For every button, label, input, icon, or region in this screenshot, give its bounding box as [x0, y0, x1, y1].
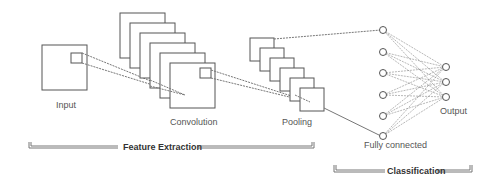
input-kernel-window [71, 53, 82, 63]
input-label: Input [56, 100, 77, 110]
fc-to-output-edges [383, 30, 445, 136]
cnn-diagram: Input Convolution Pooling Fully connecte… [0, 0, 496, 186]
fully-connected-label: Fully connected [364, 140, 427, 150]
output-label: Output [440, 106, 468, 116]
fully-connected-nodes [380, 27, 387, 140]
pooling-label: Pooling [282, 117, 312, 127]
conv-kernel-window [200, 68, 211, 78]
convolution-label: Convolution [170, 117, 218, 127]
convolution-feature-maps [120, 13, 215, 108]
classification-label: Classification [387, 166, 446, 176]
input-image [42, 45, 87, 90]
output-nodes [443, 64, 450, 101]
feature-extraction-label: Feature Extraction [123, 142, 202, 152]
pooling-feature-maps [250, 38, 324, 111]
